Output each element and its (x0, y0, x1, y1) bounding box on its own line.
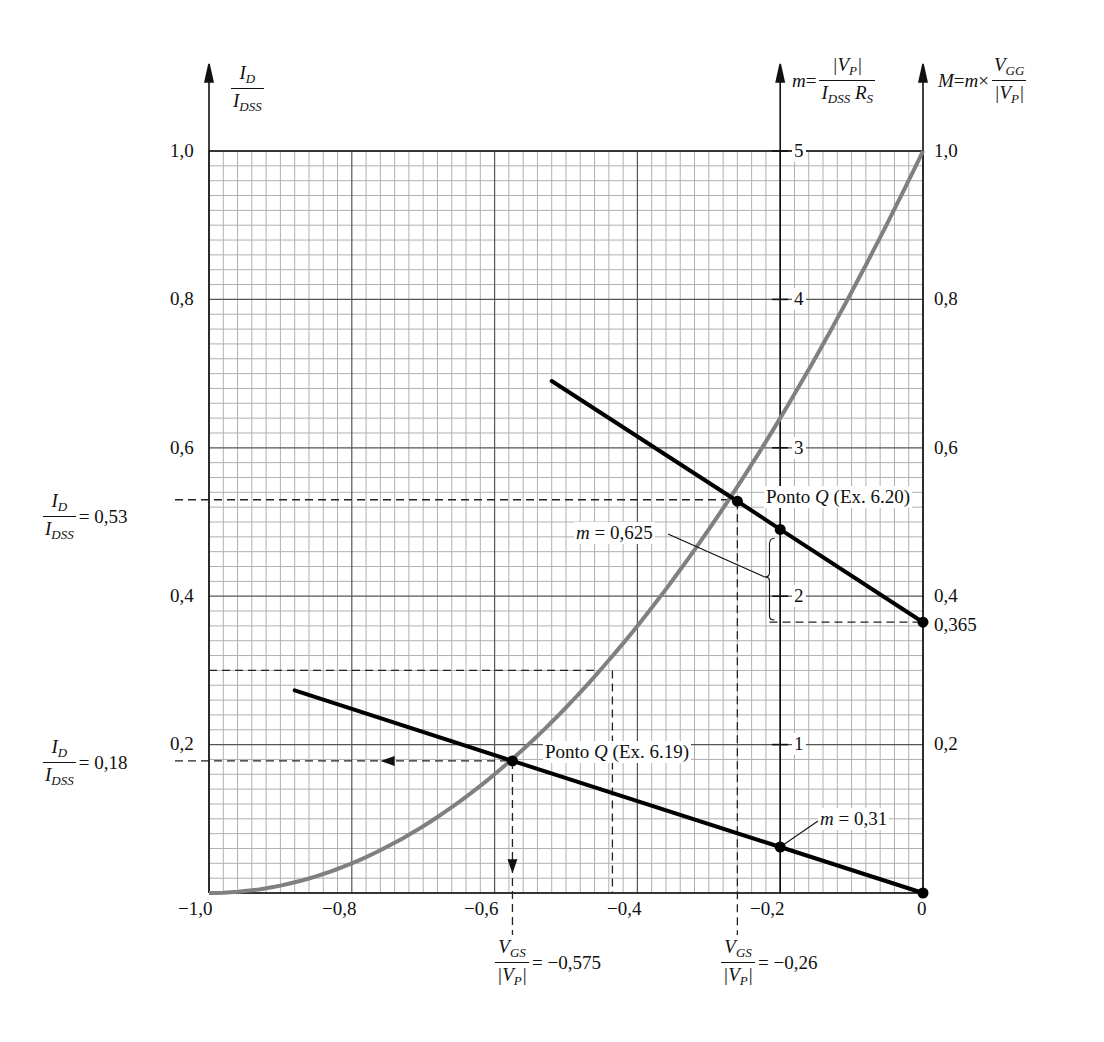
m-0-31-point (775, 841, 786, 852)
left-tick-0-4: 0,4 (170, 585, 194, 607)
M-tick-0-4: 0,4 (934, 585, 958, 607)
left-tick-0-2: 0,2 (170, 733, 194, 755)
M-tick-0-8: 0,8 (934, 288, 958, 310)
left-tick-0-6: 0,6 (170, 437, 194, 459)
m-axis-title: m = |VP| IDSS RS (792, 54, 878, 107)
m-0-625-point (775, 524, 786, 535)
M-0-365-point (918, 617, 929, 628)
M-tick-1-0: 1,0 (934, 140, 958, 162)
annotation-vgs-minus-0-26: VGS |VP| = −0,26 (718, 936, 817, 989)
left-axis-arrow-icon (205, 64, 213, 82)
m-tick-5: 5 (792, 140, 806, 162)
x-tick-minus-0-6: −0,6 (464, 898, 498, 920)
arrow-left-icon (380, 756, 394, 766)
q-point-6-19 (507, 755, 518, 766)
left-tick-1-0: 1,0 (170, 140, 194, 162)
dashed-guides (175, 500, 923, 935)
m-tick-1: 1 (792, 733, 806, 755)
annotation-q-point-6-19: Ponto Q (Ex. 6.19) (543, 741, 691, 763)
origin-point (918, 888, 929, 899)
M-axis-title: M = m × VGG |VP| (938, 54, 1029, 107)
left-tick-0-8: 0,8 (170, 288, 194, 310)
annotation-vgs-minus-0-575: VGS |VP| = −0,575 (492, 936, 601, 989)
grid-minor (209, 151, 923, 893)
x-tick-0: 0 (917, 898, 927, 920)
x-tick-minus-0-8: −0,8 (322, 898, 356, 920)
M-tick-0-2: 0,2 (934, 733, 958, 755)
annotation-q-point-6-20: Ponto Q (Ex. 6.20) (764, 486, 912, 508)
m-tick-3: 3 (792, 437, 806, 459)
m-axis-arrow-icon (776, 64, 784, 82)
M-value-0-365: 0,365 (934, 614, 977, 636)
M-axis-arrow-icon (919, 64, 927, 82)
leader-m-0-625 (668, 534, 764, 577)
q-point-6-20 (732, 496, 743, 507)
M-tick-0-6: 0,6 (934, 437, 958, 459)
annotation-m-0-31: m = 0,31 (818, 808, 889, 830)
m-tick-2: 2 (792, 585, 806, 607)
x-tick-minus-0-4: −0,4 (607, 898, 641, 920)
annotation-m-0-625: m = 0,625 (574, 522, 655, 544)
left-axis-title: ID IDSS (228, 62, 267, 115)
annotation-id-0-18: ID IDSS = 0,18 (40, 736, 127, 789)
x-tick-minus-1-0: −1,0 (178, 898, 212, 920)
x-tick-minus-0-2: −0,2 (750, 898, 784, 920)
annotation-id-0-53: ID IDSS = 0,53 (40, 490, 127, 543)
m-tick-4: 4 (792, 288, 806, 310)
